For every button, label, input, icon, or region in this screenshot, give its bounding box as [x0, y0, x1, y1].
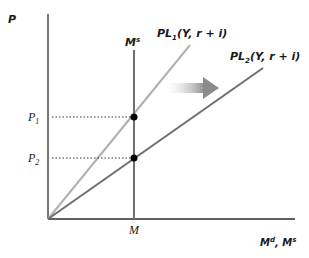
shift-arrow-icon [165, 77, 219, 99]
equilibrium-point-p1 [131, 114, 138, 121]
y-axis-label: P [8, 13, 16, 26]
pl1-curve [48, 45, 190, 219]
p2-label: P2 [27, 151, 39, 167]
money-price-level-diagram: P Ms PL1(Y, r + i) PL2(Y, r + i) P1 P2 M… [0, 0, 309, 258]
p1-label: P1 [27, 110, 39, 126]
pl2-label: PL2(Y, r + i) [230, 50, 300, 65]
x-axis-label: Md, Ms [260, 236, 296, 248]
pl1-label: PL1(Y, r + i) [157, 27, 227, 42]
pl2-curve [48, 68, 263, 219]
equilibrium-point-p2 [131, 155, 138, 162]
money-supply-label: Ms [125, 36, 140, 49]
m-tick-label: M [128, 223, 140, 237]
